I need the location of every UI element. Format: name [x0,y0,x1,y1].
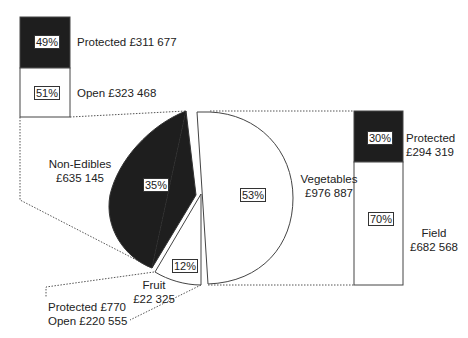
nonedibles-pct: 35% [143,178,169,192]
fruit-value: £22 325 [126,292,182,306]
fruit-pct: 12% [172,259,198,273]
vegetables-pct: 53% [240,188,266,202]
veg-protected-name: Protected [406,131,455,145]
vegetables-value: £976 887 [297,186,361,200]
fruit-label: Fruit £22 325 [126,278,182,306]
veg-protected-pct: 30% [367,131,393,145]
veg-field-pct: 70% [368,212,394,226]
nonedibles-value: £635 145 [40,171,120,185]
veg-field-label: Field £682 568 [404,226,464,254]
ne-open-pct: 51% [34,86,60,100]
nonedibles-name: Non-Edibles [40,157,120,171]
veg-field-value: £682 568 [404,240,464,254]
ne-protected-pct: 49% [34,35,60,49]
fruit-open: Open £220 555 [48,314,127,328]
veg-protected-label: Protected £294 319 [406,131,455,159]
ne-open-label: Open £323 468 [77,86,156,100]
vegetables-label: Vegetables £976 887 [297,172,361,200]
veg-field-name: Field [404,226,464,240]
veg-protected-value: £294 319 [406,145,455,159]
vegetables-name: Vegetables [297,172,361,186]
nonedibles-label: Non-Edibles £635 145 [40,157,120,185]
fruit-breakdown-label: Protected £770 Open £220 555 [48,300,127,328]
ne-protected-label: Protected £311 677 [77,35,177,49]
fruit-protected: Protected £770 [48,300,127,314]
fruit-name: Fruit [126,278,182,292]
